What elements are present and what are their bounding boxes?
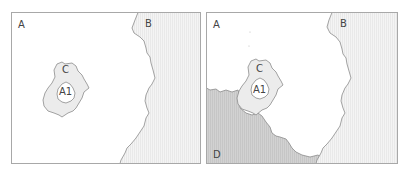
left-label-c: C [62, 64, 69, 75]
diagram-canvas: A B C A1 A B C A1 D [0, 0, 408, 169]
speck-mark [249, 31, 250, 32]
left-panel: A B C A1 [12, 13, 201, 164]
right-label-a: A [213, 19, 220, 30]
left-label-a: A [18, 19, 25, 30]
left-label-a1: A1 [59, 86, 72, 97]
speck-mark [248, 45, 249, 46]
right-label-b: B [340, 18, 347, 29]
right-label-d: D [213, 149, 221, 160]
right-label-c: C [256, 63, 263, 74]
right-label-a1: A1 [253, 84, 266, 95]
left-label-b: B [145, 18, 152, 29]
right-panel: A B C A1 D [207, 13, 398, 164]
